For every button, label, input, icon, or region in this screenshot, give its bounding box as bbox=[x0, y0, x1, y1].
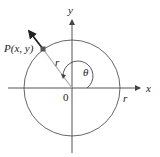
point-label: P(x, y) bbox=[3, 42, 34, 55]
angle-label: θ bbox=[83, 66, 89, 78]
angle-arc bbox=[63, 61, 93, 88]
unit-circle-diagram: P(x, y) r θ 0 r x y bbox=[0, 0, 160, 157]
radius-axis-label: r bbox=[123, 92, 128, 104]
origin-label: 0 bbox=[63, 91, 69, 103]
radius-line bbox=[43, 49, 72, 88]
point-p-marker bbox=[41, 47, 46, 52]
radius-label: r bbox=[55, 56, 60, 68]
x-axis-label: x bbox=[145, 82, 151, 94]
y-axis-label: y bbox=[67, 4, 73, 16]
